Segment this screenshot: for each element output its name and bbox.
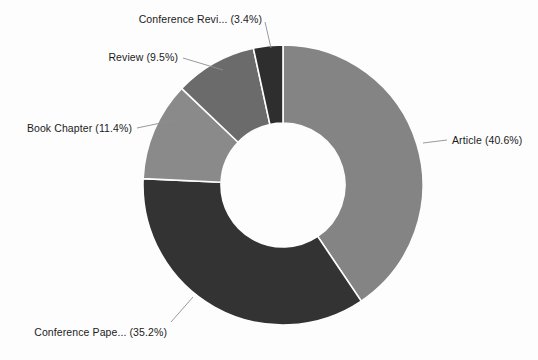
donut-chart: Article (40.6%) Conference Pape... (35.2… [0,0,538,360]
slice-label-conference-paper: Conference Pape... (35.2%) [34,326,167,338]
donut-chart-canvas: Article (40.6%) Conference Pape... (35.2… [0,0,538,360]
slice-label-review: Review (9.5%) [108,51,178,63]
slice-label-book-chapter: Book Chapter (11.4%) [27,122,132,134]
slice-label-article: Article (40.6%) [452,134,522,146]
slice-label-conference-review: Conference Revi... (3.4%) [139,13,262,25]
